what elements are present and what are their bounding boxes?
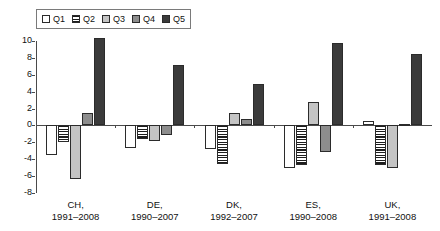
y-axis-labels: 1086420-2-4-6-8 <box>0 0 32 231</box>
category-country: UK, <box>353 199 432 211</box>
bar-q2-3 <box>296 125 307 165</box>
y-axis-tick-label: 4 <box>4 87 32 96</box>
legend-item-q4: Q4 <box>132 15 155 24</box>
bar-q1-1 <box>125 125 136 148</box>
bar-q3-0 <box>70 125 81 179</box>
y-axis-tick <box>32 109 35 110</box>
legend-swatch-q3 <box>102 15 110 23</box>
x-axis-category-label: UK,1991–2008 <box>353 199 432 223</box>
legend-label-q5: Q5 <box>173 15 185 24</box>
y-axis-tick-label: -6 <box>4 171 32 180</box>
bar-q4-0 <box>82 113 93 126</box>
y-axis-tick <box>32 142 35 143</box>
x-axis-category-label: DK,1992–2007 <box>194 199 273 223</box>
x-axis-tick <box>115 125 116 128</box>
category-period: 1991–2008 <box>353 211 432 223</box>
category-period: 1992–2007 <box>194 211 273 223</box>
bar-q5-4 <box>411 54 422 126</box>
legend-swatch-q1 <box>42 15 50 23</box>
y-axis-tick <box>32 92 35 93</box>
category-period: 1990–2007 <box>115 211 194 223</box>
bar-q5-3 <box>332 43 343 126</box>
y-axis-tick <box>32 75 35 76</box>
y-axis-tick-label: 0 <box>4 120 32 129</box>
legend-item-q3: Q3 <box>102 15 125 24</box>
bar-q1-4 <box>363 121 374 125</box>
category-country: CH, <box>36 199 115 211</box>
bar-q1-0 <box>46 125 57 155</box>
bar-q3-2 <box>229 113 240 126</box>
x-axis-tick <box>194 125 195 128</box>
y-axis-tick <box>32 193 35 194</box>
x-axis-category-label: DE,1990–2007 <box>115 199 194 223</box>
x-axis-tick <box>353 125 354 128</box>
category-period: 1990–2008 <box>274 211 353 223</box>
bar-q5-2 <box>253 84 264 125</box>
category-country: ES, <box>274 199 353 211</box>
legend-label-q1: Q1 <box>53 15 65 24</box>
y-axis-tick <box>32 176 35 177</box>
y-axis-tick <box>32 125 35 126</box>
zero-baseline <box>36 125 432 126</box>
legend-item-q1: Q1 <box>42 15 65 24</box>
legend-swatch-q5 <box>162 15 170 23</box>
x-axis-category-label: ES,1990–2008 <box>274 199 353 223</box>
y-axis-tick <box>32 159 35 160</box>
y-axis-tick <box>32 58 35 59</box>
legend-swatch-q2 <box>72 15 80 23</box>
bar-q5-1 <box>173 65 184 125</box>
bar-q3-1 <box>149 125 160 141</box>
bar-q2-2 <box>217 125 228 164</box>
bar-q3-3 <box>308 102 319 126</box>
bar-q4-2 <box>241 119 252 126</box>
y-axis-tick <box>32 41 35 42</box>
x-axis-category-label: CH,1991–2008 <box>36 199 115 223</box>
legend-item-q5: Q5 <box>162 15 185 24</box>
bar-q1-2 <box>205 125 216 149</box>
bar-q3-4 <box>387 125 398 167</box>
category-country: DE, <box>115 199 194 211</box>
y-axis-tick-label: 8 <box>4 53 32 62</box>
legend-item-q2: Q2 <box>72 15 95 24</box>
category-country: DK, <box>194 199 273 211</box>
bar-q5-0 <box>94 38 105 126</box>
y-axis-tick-label: -4 <box>4 154 32 163</box>
chart-legend: Q1 Q2 Q3 Q4 Q5 <box>36 9 191 29</box>
legend-label-q4: Q4 <box>143 15 155 24</box>
bar-q4-4 <box>399 124 410 126</box>
y-axis-tick-label: -2 <box>4 137 32 146</box>
y-axis-tick-label: 2 <box>4 104 32 113</box>
legend-swatch-q4 <box>132 15 140 23</box>
bar-q1-3 <box>284 125 295 167</box>
y-axis-tick-label: -8 <box>4 188 32 197</box>
bar-q2-4 <box>375 125 386 165</box>
bar-q4-1 <box>161 125 172 134</box>
bar-chart: Q1 Q2 Q3 Q4 Q5 1086420-2-4-6-8 CH,1991–2… <box>0 0 440 231</box>
legend-label-q3: Q3 <box>113 15 125 24</box>
x-axis-tick <box>274 125 275 128</box>
y-axis-tick-label: 6 <box>4 70 32 79</box>
bar-q2-1 <box>137 125 148 139</box>
legend-label-q2: Q2 <box>83 15 95 24</box>
category-period: 1991–2008 <box>36 211 115 223</box>
y-axis-tick-label: 10 <box>4 36 32 45</box>
bar-q4-3 <box>320 125 331 152</box>
plot-area <box>36 41 432 193</box>
bar-q2-0 <box>58 125 69 142</box>
